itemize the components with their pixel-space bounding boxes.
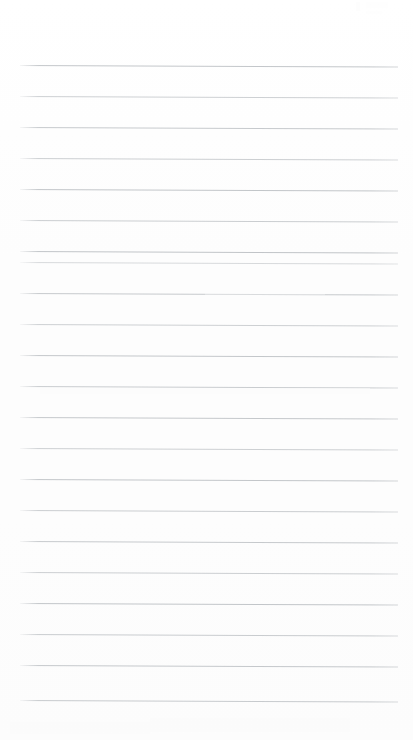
ruled-line xyxy=(20,700,398,702)
ruled-line xyxy=(20,541,398,543)
scanned-page xyxy=(0,0,413,740)
ruled-line xyxy=(20,479,398,481)
ruled-line xyxy=(20,324,398,326)
ruled-line xyxy=(20,603,398,605)
ruled-lines-layer xyxy=(0,0,413,740)
ruled-line xyxy=(20,189,398,191)
ruled-line xyxy=(20,251,398,253)
ruled-line xyxy=(20,293,398,295)
ruled-line xyxy=(20,634,398,636)
ruled-line xyxy=(20,355,398,357)
ruled-line xyxy=(20,65,398,67)
ruled-line xyxy=(20,96,398,98)
ruled-line xyxy=(20,510,398,512)
ruled-line xyxy=(20,417,398,419)
ruled-line xyxy=(20,572,398,574)
ruled-line xyxy=(20,127,398,129)
ruled-line xyxy=(20,665,398,667)
ruled-line xyxy=(20,262,398,264)
ruled-line xyxy=(20,158,398,160)
ruled-line xyxy=(20,220,398,222)
ruled-line xyxy=(20,448,398,450)
ruled-line xyxy=(20,386,398,388)
